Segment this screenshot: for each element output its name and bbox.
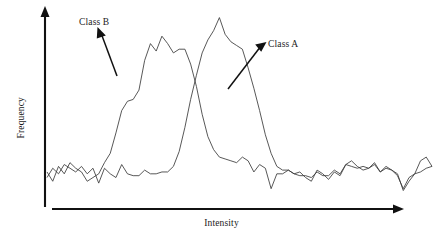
class-b-curve (47, 36, 432, 190)
class-a-annotation-label: Class A (268, 40, 298, 50)
chart-figure: Class B Class A Intensity Frequency (0, 0, 443, 241)
class-b-annotation-label: Class B (79, 18, 109, 28)
class-b-leader-arrow (97, 27, 117, 76)
plot-canvas (0, 0, 443, 241)
x-axis-label: Intensity (0, 219, 443, 229)
y-axis-label: Frequency (17, 83, 27, 153)
y-axis-arrow (41, 6, 50, 207)
x-axis-arrow (52, 205, 404, 214)
